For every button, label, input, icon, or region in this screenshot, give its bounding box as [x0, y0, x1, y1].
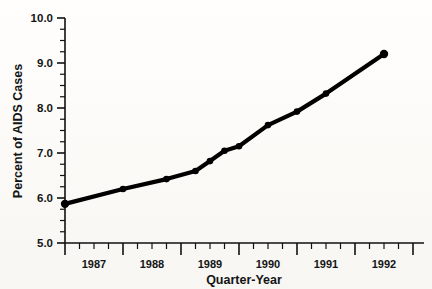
data-point	[192, 168, 199, 175]
data-point	[120, 186, 127, 193]
x-axis-major-ticks	[65, 243, 413, 255]
x-tick-label: 1991	[314, 258, 338, 270]
y-tick-label: 10.0	[31, 12, 53, 24]
series-line	[65, 54, 384, 204]
data-point	[221, 147, 228, 154]
y-tick-label: 9.0	[37, 57, 53, 69]
data-point	[163, 176, 170, 183]
data-point	[294, 108, 301, 115]
x-tick-label: 1992	[372, 258, 396, 270]
data-point	[61, 200, 69, 208]
y-axis-tick-labels: 5.0 6.0 7.0 8.0 9.0 10.0	[31, 12, 53, 249]
y-tick-label: 7.0	[37, 147, 53, 159]
y-tick-label: 5.0	[37, 237, 53, 249]
data-point	[236, 143, 243, 150]
x-tick-label: 1990	[256, 258, 280, 270]
x-axis-title: Quarter-Year	[206, 273, 282, 287]
series-markers	[61, 50, 388, 208]
data-point	[380, 50, 388, 58]
data-point	[207, 158, 214, 165]
y-tick-label: 8.0	[37, 102, 53, 114]
x-axis-tick-labels: 1987 1988 1989 1990 1991 1992	[82, 258, 396, 270]
y-axis-title: Percent of AIDS Cases	[11, 64, 25, 198]
y-tick-label: 6.0	[37, 192, 53, 204]
chart-figure: 5.0 6.0 7.0 8.0 9.0 10.0	[0, 0, 432, 289]
data-point	[265, 122, 272, 129]
data-point	[323, 90, 330, 97]
line-chart: 5.0 6.0 7.0 8.0 9.0 10.0	[0, 0, 432, 289]
x-tick-label: 1989	[198, 258, 222, 270]
x-tick-label: 1987	[82, 258, 106, 270]
x-tick-label: 1988	[140, 258, 164, 270]
